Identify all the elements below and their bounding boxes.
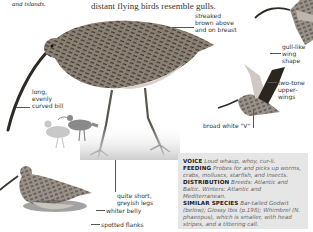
bar-tailed-godwit — [0, 166, 92, 212]
species-info-box: VOICE Loud whaup, whoy, cur-li. FEEDING … — [178, 153, 308, 229]
feeding-heading: FEEDING — [183, 165, 211, 171]
flying-curlew-top — [255, 0, 313, 45]
label-legs: quite short, greyish legs — [117, 192, 157, 206]
label-flanks: spotted flanks — [101, 221, 144, 228]
silhouette-light — [45, 121, 71, 149]
similar-species-heading: SIMILAR SPECIES — [183, 200, 238, 206]
label-belly: whiter belly — [106, 207, 141, 214]
flying-godwit — [218, 64, 285, 116]
label-bill: long, evenly curved bill — [32, 88, 66, 109]
label-two-tone: two-tone upper-wings — [278, 79, 312, 100]
label-gull-wing: gull-like wing shape — [282, 43, 313, 64]
voice-heading: VOICE — [183, 158, 203, 164]
label-broad-v: broad white "V" — [203, 122, 250, 129]
distribution-heading: DISTRIBUTION — [183, 179, 229, 185]
voice-text: Loud whaup, whoy, cur-li. — [204, 158, 275, 164]
label-streaked: streaked brown above and on breast — [195, 12, 240, 33]
